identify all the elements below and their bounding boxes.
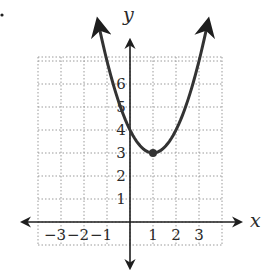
parabola-graph: x y −3−2−1123 123456	[0, 0, 267, 276]
problem-marker	[0, 13, 3, 16]
y-tick-label: 3	[116, 144, 126, 162]
y-axis-label: y	[122, 3, 134, 25]
y-tick-label: 6	[116, 75, 126, 93]
y-tick-label: 2	[116, 167, 126, 185]
x-tick-label: −3	[44, 226, 66, 244]
vertex-point	[149, 149, 157, 157]
x-tick-label: −2	[67, 226, 89, 244]
y-tick-label: 1	[116, 190, 126, 208]
x-tick-label: −1	[90, 226, 112, 244]
x-tick-label: 3	[194, 226, 204, 244]
parabola-curve	[98, 21, 208, 153]
x-tick-label: 2	[171, 226, 181, 244]
y-tick-label: 4	[116, 121, 126, 139]
x-axis-label: x	[250, 209, 261, 231]
x-tick-label: 1	[148, 226, 158, 244]
x-tick-labels: −3−2−1123	[44, 226, 204, 244]
